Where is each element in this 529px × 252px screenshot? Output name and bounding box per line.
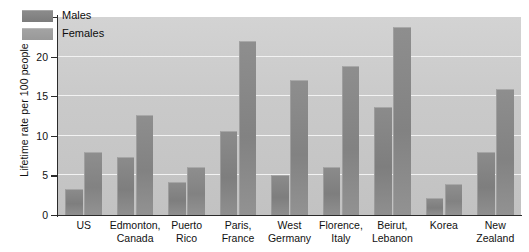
y-axis-tick-label: 10 [8, 130, 48, 142]
x-axis-label-line: Zealand [466, 232, 525, 245]
legend-item-males: Males [22, 8, 104, 23]
bar-females [393, 27, 411, 215]
y-axis-tick-label: 0 [8, 209, 48, 221]
bar-males [374, 107, 392, 215]
bar-females [496, 89, 514, 215]
bar-females [290, 80, 308, 215]
bar-males [220, 131, 238, 215]
bar-females [239, 41, 257, 215]
bar-males [271, 175, 289, 215]
y-axis-tick [51, 175, 58, 176]
y-axis-tick [51, 96, 58, 97]
x-axis-labels: USEdmonton,CanadaPuertoRicoParis,FranceW… [58, 219, 521, 252]
bar-males [117, 157, 135, 215]
y-axis-tick [51, 215, 58, 216]
y-axis-tick-label: 20 [8, 51, 48, 63]
legend: Males Females [22, 8, 104, 44]
legend-swatch-males [22, 10, 53, 22]
y-axis-line [57, 15, 58, 217]
bar-females [136, 115, 154, 215]
bar-males [65, 189, 83, 215]
bar-males [477, 152, 495, 215]
plot-area [58, 17, 521, 215]
y-axis-tick [51, 136, 58, 137]
y-axis-tick-label: 5 [8, 169, 48, 181]
y-axis-tick [51, 57, 58, 58]
grouped-bar-chart: Lifetime rate per 100 people 0510152025 … [0, 0, 529, 252]
legend-item-females: Females [22, 26, 104, 41]
bar-females [84, 152, 102, 215]
x-axis-category-label: NewZealand [466, 219, 525, 244]
x-axis-label-line: Lebanon [363, 232, 422, 245]
bar-males [168, 182, 186, 215]
bar-males [323, 167, 341, 215]
bar-females [342, 66, 360, 215]
x-axis-label-line: New [466, 219, 525, 232]
legend-swatch-females [22, 28, 53, 40]
legend-label-males: Males [62, 10, 91, 21]
bar-females [445, 184, 463, 215]
x-axis-line [51, 215, 522, 216]
bar-males [426, 198, 444, 215]
legend-label-females: Females [62, 28, 104, 39]
gridline [58, 56, 521, 57]
bar-females [187, 167, 205, 215]
y-axis-tick-label: 15 [8, 90, 48, 102]
